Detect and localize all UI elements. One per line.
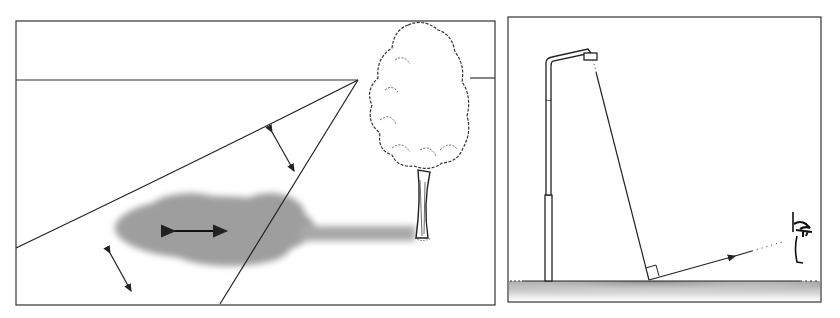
right-panel — [508, 17, 821, 302]
incident-ray — [596, 72, 649, 280]
ground-shadow — [115, 193, 415, 266]
street-lamp — [545, 49, 597, 281]
reflected-ray — [649, 256, 735, 280]
diagram-canvas — [0, 0, 840, 318]
lamp-head — [584, 53, 597, 60]
double-arrow-lower — [110, 253, 131, 291]
double-arrow-upper — [272, 132, 294, 171]
left-panel — [16, 21, 495, 305]
tree-illustration — [370, 22, 469, 240]
sight-line-right — [220, 80, 358, 304]
observer-eye-icon — [793, 212, 812, 263]
